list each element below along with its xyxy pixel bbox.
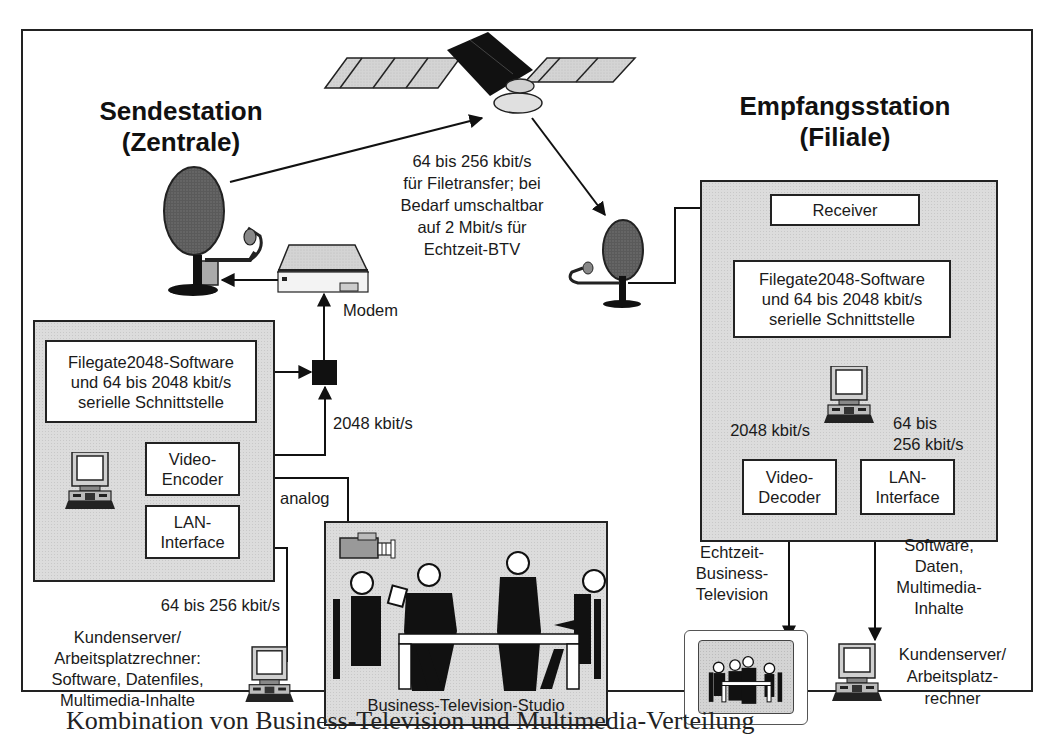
label-line: 64 bis bbox=[893, 413, 964, 434]
box-line: Filegate2048-Software bbox=[68, 352, 234, 372]
label-line: Daten, bbox=[878, 556, 1000, 577]
receiver-title: Empfangsstation (Filiale) bbox=[715, 91, 975, 153]
receiver-dish-icon bbox=[570, 220, 643, 308]
video-encoder-box: Video- Encoder bbox=[145, 442, 240, 496]
tv-screen bbox=[698, 640, 794, 714]
tv-studio-scene-icon bbox=[699, 641, 792, 712]
label-line: Multimedia- bbox=[878, 577, 1000, 598]
sender-title: Sendestation (Zentrale) bbox=[76, 96, 286, 158]
box-line: Interface bbox=[160, 532, 224, 552]
link-line: auf 2 Mbit/s für bbox=[377, 216, 567, 238]
label-line: Software, Datenfiles, bbox=[25, 669, 230, 690]
receiver-client-computer-icon bbox=[822, 642, 892, 704]
video-camera-icon bbox=[340, 533, 395, 558]
receiver-video-rate: 2048 kbit/s bbox=[700, 420, 810, 440]
sender-rate-2048: 2048 kbit/s bbox=[333, 413, 413, 433]
sender-title-line2: (Zentrale) bbox=[76, 127, 286, 158]
box-line: LAN- bbox=[889, 467, 927, 487]
label-line: Kundenserver/ bbox=[25, 627, 230, 648]
label-line: Echtzeit- bbox=[680, 542, 784, 563]
sender-client-label: Kundenserver/ Arbeitsplatzrechner: Softw… bbox=[25, 627, 230, 711]
analog-label: analog bbox=[280, 488, 330, 508]
studio-scene-icon bbox=[324, 521, 608, 691]
video-decoder-box: Video- Decoder bbox=[742, 459, 837, 515]
box-line: und 64 bis 2048 kbit/s bbox=[762, 289, 923, 309]
label-line: Business- bbox=[680, 563, 784, 584]
multiplexer-icon bbox=[312, 360, 337, 385]
receiver-title-line1: Empfangsstation bbox=[715, 91, 975, 122]
figure-caption: Kombination von Business-Television und … bbox=[66, 706, 755, 749]
receiver-lan-rate: 64 bis 256 kbit/s bbox=[893, 413, 964, 455]
receiver-lan-interface-box: LAN- Interface bbox=[860, 459, 955, 515]
label-line: 256 kbit/s bbox=[893, 434, 964, 455]
box-line: serielle Schnittstelle bbox=[769, 309, 915, 329]
receiver-title-line2: (Filiale) bbox=[715, 122, 975, 153]
label-line: rechner bbox=[890, 687, 1015, 709]
label-line: Software, bbox=[878, 535, 1000, 556]
box-line: Interface bbox=[875, 487, 939, 507]
link-line: Bedarf umschaltbar bbox=[377, 194, 567, 216]
satellite-link-label: 64 bis 256 kbit/s für Filetransfer; bei … bbox=[377, 150, 567, 260]
satellite-icon bbox=[325, 32, 635, 113]
sender-title-line1: Sendestation bbox=[76, 96, 286, 127]
receiver-client-label: Kundenserver/ Arbeitsplatz- rechner bbox=[890, 643, 1015, 709]
sender-computer-icon bbox=[64, 452, 116, 512]
link-line: 64 bis 256 kbit/s bbox=[377, 150, 567, 172]
box-line: und 64 bis 2048 kbit/s bbox=[71, 372, 232, 392]
label-line: Inhalte bbox=[878, 598, 1000, 619]
receiver-box: Receiver bbox=[770, 194, 920, 226]
box-line: serielle Schnittstelle bbox=[78, 392, 224, 412]
label-line: Kundenserver/ bbox=[890, 643, 1015, 665]
receiver-computer-icon bbox=[820, 366, 878, 426]
box-line: Decoder bbox=[758, 487, 820, 507]
box-line: Encoder bbox=[162, 469, 223, 489]
box-line: LAN- bbox=[174, 512, 212, 532]
box-line: Video- bbox=[766, 467, 813, 487]
sender-filegate-box: Filegate2048-Software und 64 bis 2048 kb… bbox=[45, 340, 257, 423]
sender-dish-icon bbox=[164, 167, 261, 296]
link-line: für Filetransfer; bei bbox=[377, 172, 567, 194]
modem-icon bbox=[278, 245, 368, 292]
sender-lan-rate: 64 bis 256 kbit/s bbox=[130, 595, 280, 615]
label-line: Arbeitsplatz- bbox=[890, 665, 1015, 687]
label-line: Arbeitsplatzrechner: bbox=[25, 648, 230, 669]
link-line: Echtzeit-BTV bbox=[377, 238, 567, 260]
sender-client-computer-icon bbox=[232, 645, 307, 705]
sender-lan-interface-box: LAN- Interface bbox=[145, 505, 240, 559]
caption-text: Kombination von Business-Television und … bbox=[66, 706, 755, 735]
box-line: Video- bbox=[169, 449, 216, 469]
receiver-filegate-box: Filegate2048-Software und 64 bis 2048 kb… bbox=[733, 260, 951, 338]
content-label: Software, Daten, Multimedia- Inhalte bbox=[878, 535, 1000, 619]
modem-label: Modem bbox=[343, 300, 398, 320]
label-line: Television bbox=[680, 584, 784, 605]
btv-label: Echtzeit- Business- Television bbox=[680, 542, 784, 605]
box-line: Filegate2048-Software bbox=[759, 269, 925, 289]
